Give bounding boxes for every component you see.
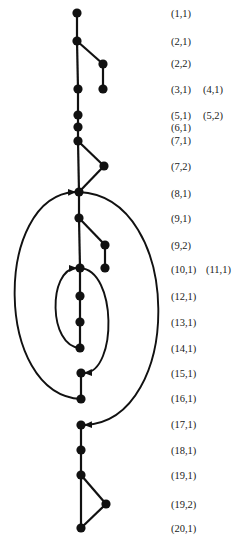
node-label: (13,1) [171,317,197,329]
node-label: (1,1) [171,8,192,20]
node-label: (11,1) [206,264,231,276]
edge-n2_1-n2_2 [77,41,103,64]
node-label: (19,2) [171,499,197,511]
node-n7_1 [73,136,82,145]
edge-n19_2-n20_1 [81,504,106,528]
node-n9_2 [100,240,109,249]
node-n20_1 [76,523,85,532]
node-n16_1 [76,394,85,403]
node-label: (2,1) [171,36,192,48]
node-label: (9,2) [171,240,192,252]
node-n19_1 [76,470,85,479]
node-n5_1 [73,110,82,119]
node-label: (17,1) [171,419,197,431]
node-label: (5,2) [203,110,224,122]
node-label: (8,1) [171,188,192,200]
node-label: (18,1) [171,445,197,457]
edge-n2_1-n3_1 [77,41,78,89]
arc-loop-back-16-to-8 [15,192,81,399]
node-n2_2 [98,59,107,68]
node-n10_1 [75,263,84,272]
node-n11_1 [100,263,109,272]
node-label: (7,1) [171,135,192,147]
node-label: (2,2) [171,58,192,70]
node-n13_1 [75,317,84,326]
edge-n9_1-n9_2 [79,218,105,245]
node-n19_2 [101,499,110,508]
edge-n7_1-n7_2 [78,141,104,166]
flow-graph-diagram: (1,1)(2,1)(2,2)(3,1)(4,1)(5,1)(5,2)(6,1)… [0,0,239,542]
edge-n7_1-n8_1 [78,141,79,192]
node-label: (7,2) [171,161,192,173]
node-n12_1 [75,291,84,300]
node-label: (20,1) [171,523,197,535]
node-n4_1 [98,84,107,93]
edge-n9_1-n10_1 [79,218,80,268]
node-labels: (1,1)(2,1)(2,2)(3,1)(4,1)(5,1)(5,2)(6,1)… [171,8,231,535]
node-n3_1 [73,84,82,93]
node-n1_1 [72,8,81,17]
graph-nodes [72,8,110,532]
node-n15_1 [76,368,85,377]
node-n17_1 [76,420,85,429]
node-label: (9,1) [171,213,192,225]
node-label: (12,1) [171,291,197,303]
node-n2_1 [72,36,81,45]
node-label: (14,1) [171,343,197,355]
arc-exit-8-to-17 [79,192,158,425]
node-n7_2 [99,161,108,170]
node-n9_1 [74,213,83,222]
edge-n19_1-n19_2 [81,475,106,504]
node-label: (16,1) [171,393,197,405]
node-n14_1 [75,343,84,352]
node-n8_1 [74,187,83,196]
node-n18_1 [76,445,85,454]
node-label: (19,1) [171,470,197,482]
node-label: (5,1) [171,110,192,122]
node-n6_1 [73,122,82,131]
edge-n7_2-n8_1 [79,166,104,192]
node-label: (4,1) [203,84,224,96]
node-label: (15,1) [171,368,197,380]
node-label: (3,1) [171,84,192,96]
node-label: (6,1) [171,122,192,134]
node-label: (10,1) [171,264,197,276]
arc-loop-back-14-to-10 [56,268,80,348]
